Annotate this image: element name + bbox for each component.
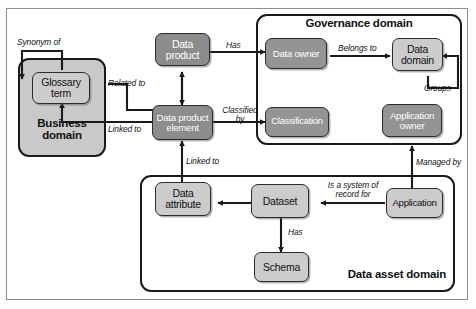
- node-schema[interactable]: Schema: [254, 252, 309, 282]
- node-dataset[interactable]: Dataset: [251, 184, 309, 218]
- edge-label-synonym-of: Synonym of: [17, 38, 60, 47]
- node-classification[interactable]: Classification: [265, 107, 329, 137]
- edge-label-belongs-to: Belongs to: [338, 44, 377, 53]
- node-data-attribute[interactable]: Data attribute: [155, 182, 211, 216]
- diagram-canvas: Business domain Governance domain Data a…: [0, 0, 476, 309]
- edge-label-linked-to-glossary: Linked to: [108, 125, 141, 134]
- node-data-product-element[interactable]: Data product element: [152, 105, 213, 140]
- domain-governance-label: Governance domain: [256, 17, 462, 29]
- domain-data-asset-label: Data asset domain: [330, 268, 446, 280]
- edge-label-related-to: Related to: [108, 79, 145, 88]
- domain-business-label: Business domain: [18, 117, 106, 141]
- edge-label-groups: Groups: [424, 84, 451, 93]
- node-application-owner[interactable]: Application owner: [382, 104, 442, 137]
- edge-label-managed-by: Managed by: [416, 158, 461, 167]
- edge-label-classified-by: Classified by: [219, 106, 261, 124]
- edge-label-linked-to-attr: Linked to: [186, 157, 219, 166]
- edge-label-has-owner: Has: [226, 41, 241, 50]
- edge-label-has-schema: Has: [288, 228, 303, 237]
- node-glossary-term[interactable]: Glossary term: [32, 72, 90, 104]
- node-data-domain[interactable]: Data domain: [392, 38, 443, 71]
- edge-label-is-system-of-record: Is a system of record for: [322, 181, 384, 199]
- node-data-owner[interactable]: Data owner: [265, 38, 327, 69]
- node-application[interactable]: Application: [386, 188, 443, 218]
- node-data-product[interactable]: Data product: [155, 33, 210, 66]
